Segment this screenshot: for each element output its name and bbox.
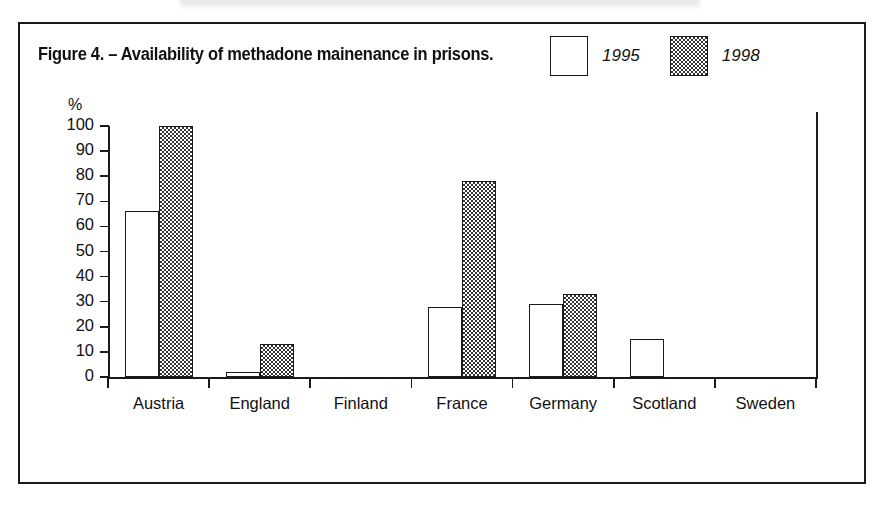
- y-axis-tick: [100, 301, 109, 303]
- y-axis-tick: [100, 276, 109, 278]
- axis-area: 1009080706050403020100 AustriaEnglandFin…: [20, 86, 864, 486]
- x-axis-tick: [714, 377, 716, 388]
- bar-france-1998: [462, 181, 496, 377]
- x-axis-tick: [107, 377, 109, 388]
- y-axis-tick-label: 40: [54, 266, 94, 285]
- figure-title: Figure 4. – Availability of methadone ma…: [38, 44, 493, 65]
- category-label-finland: Finland: [334, 394, 388, 413]
- y-axis-tick-label: 20: [54, 316, 94, 335]
- y-axis-tick-label: 70: [54, 190, 94, 209]
- category-label-sweden: Sweden: [736, 394, 796, 413]
- y-axis-tick-label: 0: [54, 366, 94, 385]
- bar-france-1995: [428, 307, 462, 377]
- y-axis-tick-label: 100: [54, 115, 94, 134]
- bar-england-1998: [260, 344, 294, 377]
- plot-right-rule: [816, 112, 818, 379]
- y-axis-tick-label: 30: [54, 291, 94, 310]
- x-axis-tick: [815, 377, 817, 388]
- x-axis-tick: [208, 377, 210, 388]
- x-axis-tick: [512, 377, 514, 388]
- y-axis-tick: [100, 326, 109, 328]
- category-label-england: England: [229, 394, 290, 413]
- legend-swatch-1995-icon: [550, 36, 588, 76]
- y-axis-tick-label: 10: [54, 341, 94, 360]
- y-axis-tick: [100, 150, 109, 152]
- figure-frame: Figure 4. – Availability of methadone ma…: [18, 22, 866, 484]
- y-axis-tick-label: 50: [54, 241, 94, 260]
- y-axis-tick: [100, 201, 109, 203]
- bar-austria-1995: [125, 211, 159, 377]
- x-axis-tick: [613, 377, 615, 388]
- x-axis-tick: [411, 377, 413, 388]
- y-axis-tick: [100, 351, 109, 353]
- bar-germany-1995: [529, 304, 563, 377]
- bar-england-1995: [226, 372, 260, 377]
- y-axis-tick: [100, 175, 109, 177]
- category-label-france: France: [436, 394, 487, 413]
- category-label-scotland: Scotland: [632, 394, 696, 413]
- y-axis-tick: [100, 251, 109, 253]
- y-axis-tick: [100, 125, 109, 127]
- x-axis-line: [108, 377, 816, 379]
- legend-label-1995: 1995: [602, 46, 640, 66]
- category-label-austria: Austria: [133, 394, 184, 413]
- plot-area: % 1009080706050403020100 AustriaEnglandF…: [20, 86, 864, 486]
- y-axis-tick-label: 60: [54, 215, 94, 234]
- legend-swatch-1998-icon: [670, 36, 708, 76]
- y-axis-tick-label: 80: [54, 165, 94, 184]
- y-axis-tick-label: 90: [54, 140, 94, 159]
- bar-germany-1998: [563, 294, 597, 377]
- legend-item-1998: 1998: [670, 36, 760, 76]
- figure-header: Figure 4. – Availability of methadone ma…: [20, 24, 864, 86]
- x-axis-tick: [309, 377, 311, 388]
- bar-austria-1998: [159, 126, 193, 377]
- category-label-germany: Germany: [529, 394, 597, 413]
- legend-label-1998: 1998: [722, 46, 760, 66]
- y-axis-tick: [100, 226, 109, 228]
- bar-scotland-1995: [630, 339, 664, 377]
- chart-legend: 1995 1998: [550, 36, 760, 76]
- legend-item-1995: 1995: [550, 36, 640, 76]
- scan-artifact-sliver: [180, 0, 700, 10]
